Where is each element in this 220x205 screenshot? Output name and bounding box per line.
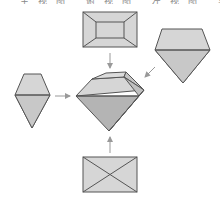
left-view-shape	[15, 74, 50, 128]
right-view-shape	[155, 29, 210, 83]
bottom-view-shape	[83, 157, 137, 192]
arrow-right	[145, 67, 155, 77]
gem-3d-shape	[76, 72, 144, 131]
gem-views-diagram	[0, 0, 220, 205]
top-view-shape	[83, 12, 137, 47]
